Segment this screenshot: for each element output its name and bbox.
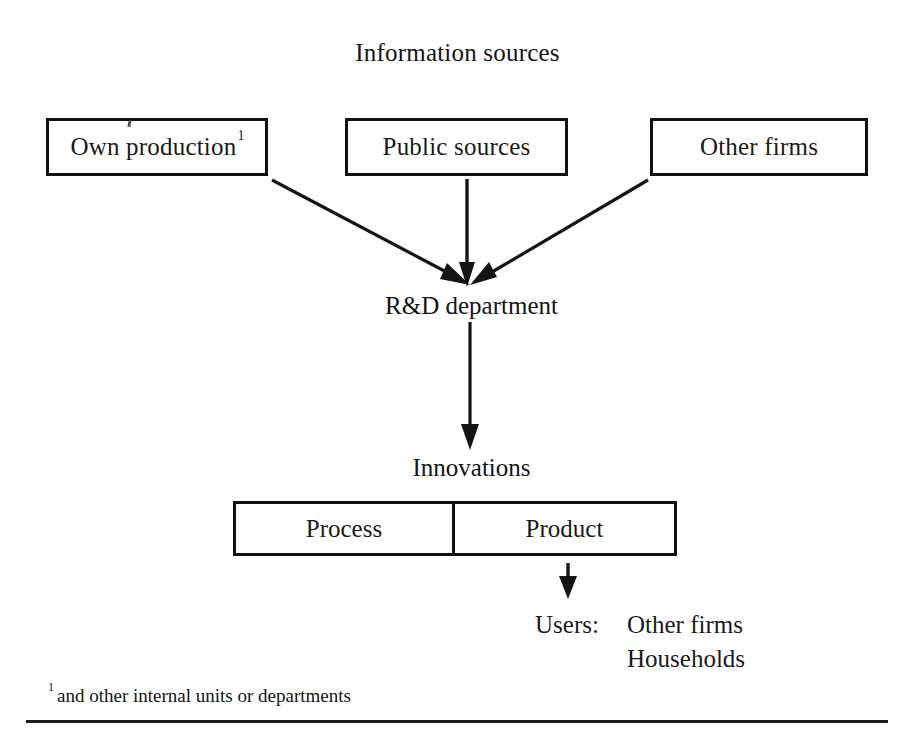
footnote-text: and other internal units or departments — [57, 685, 351, 706]
list-item: Households — [627, 642, 745, 676]
users-row: Users: Other firms Households — [535, 608, 745, 676]
innovation-cell-product-label: Product — [526, 515, 604, 543]
footnote: 1and other internal units or departments — [48, 686, 351, 705]
arrow-rnd-to-innovations — [461, 322, 479, 450]
label-innovations: Innovations — [0, 455, 915, 480]
arrow-other-firms-to-rnd — [470, 180, 648, 285]
label-innovations-text: Innovations — [412, 454, 530, 481]
innovation-types-box: Process Product — [233, 501, 677, 556]
diagram-page: Information sources Own production1 Publ… — [0, 0, 915, 734]
users-label: Users: — [535, 608, 627, 676]
footnote-marker: 1 — [48, 680, 54, 694]
users-list: Other firms Households — [627, 608, 745, 676]
innovation-cell-process: Process — [236, 504, 455, 553]
users-block: Users: Other firms Households — [535, 608, 745, 676]
arrow-product-to-users — [559, 563, 577, 599]
bottom-divider — [26, 720, 888, 723]
arrow-layer — [0, 0, 915, 734]
arrow-own-production-to-rnd — [272, 180, 470, 285]
arrow-public-sources-to-rnd — [459, 179, 475, 287]
label-rnd-department: R&D department — [0, 293, 915, 318]
label-rnd-department-text: R&D department — [385, 292, 558, 319]
innovation-cell-process-label: Process — [306, 515, 382, 543]
innovation-cell-product: Product — [455, 504, 674, 553]
list-item: Other firms — [627, 608, 745, 642]
